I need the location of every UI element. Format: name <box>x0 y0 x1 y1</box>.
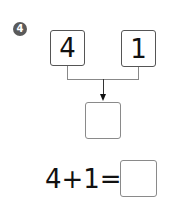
answer-box[interactable] <box>120 160 157 197</box>
equation-text: 4+1= <box>45 164 122 194</box>
addend-box-right: 1 <box>121 30 156 67</box>
problem-number-badge: 4 <box>13 22 27 36</box>
connector-right-vertical <box>138 67 139 79</box>
connector-down <box>103 79 104 95</box>
sum-box[interactable] <box>85 102 121 139</box>
addend-box-left: 4 <box>50 30 85 66</box>
arrow-down-icon <box>100 94 106 101</box>
connector-left-vertical <box>67 66 68 79</box>
